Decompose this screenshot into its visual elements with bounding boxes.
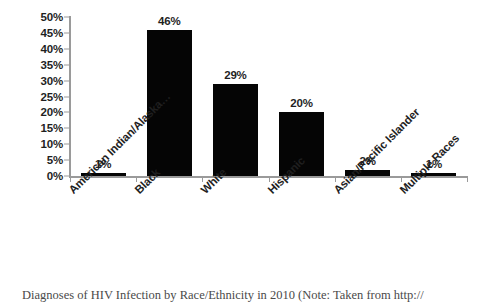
y-axis-tick-label: 50% (41, 11, 63, 23)
bar-value-label: 46% (158, 15, 180, 27)
y-axis-tick-label: 35% (41, 59, 63, 71)
x-axis-tick-mark (401, 176, 402, 182)
bar-value-label: 20% (290, 97, 312, 109)
y-axis-tick-mark (64, 64, 70, 65)
bar-chart-figure: 0%5%10%15%20%25%30%35%40%45%50% 1%46%29%… (0, 0, 486, 306)
y-axis-tick-label: 25% (41, 91, 63, 103)
y-axis-tick-mark (64, 80, 70, 81)
x-axis-tick-mark (335, 176, 336, 182)
y-axis-tick-label: 15% (41, 122, 63, 134)
y-axis-tick-label: 20% (41, 106, 63, 118)
plot-area: 0%5%10%15%20%25%30%35%40%45%50% 1%46%29%… (70, 17, 467, 176)
y-axis-tick-label: 0% (47, 170, 63, 182)
figure-caption: Diagnoses of HIV Infection by Race/Ethni… (22, 288, 482, 303)
y-axis-tick-mark (64, 48, 70, 49)
y-axis-tick-label: 40% (41, 43, 63, 55)
x-axis-tick-mark (269, 176, 270, 182)
x-axis-tick-mark (467, 176, 468, 182)
y-axis-tick-mark (64, 144, 70, 145)
y-axis-tick-mark (64, 17, 70, 18)
y-axis-tick-mark (64, 32, 70, 33)
y-axis-tick-label: 5% (47, 154, 63, 166)
y-axis-tick-label: 45% (41, 27, 63, 39)
y-axis-tick-mark (64, 160, 70, 161)
bar[interactable]: 29% (213, 84, 258, 176)
y-axis-tick-mark (64, 96, 70, 97)
y-axis-tick-mark (64, 112, 70, 113)
bar-value-label: 29% (224, 69, 246, 81)
x-axis-tick-mark (70, 176, 71, 182)
y-axis-tick-label: 30% (41, 75, 63, 87)
y-axis-tick-label: 10% (41, 138, 63, 150)
y-axis-tick-mark (64, 128, 70, 129)
